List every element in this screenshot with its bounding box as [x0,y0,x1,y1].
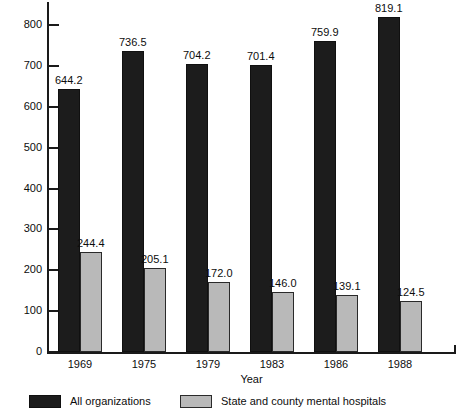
legend-label-state-county-mental-hospitals: State and county mental hospitals [221,395,386,407]
bar-value-label: 644.2 [55,75,83,86]
legend-item-all-organizations: All organizations [29,391,151,411]
x-axis-tick-label: 1988 [380,358,420,370]
bar-value-label: 244.4 [77,238,105,249]
bar [58,89,80,352]
x-axis-tick-label: 1986 [316,358,356,370]
bar-value-label: 124.5 [397,287,425,298]
bar [186,64,208,352]
x-axis-title: Year [47,373,456,385]
bar [80,252,102,352]
bar [122,51,144,352]
x-axis-tick-label: 1979 [188,358,228,370]
legend-swatch-dark-icon [29,395,61,408]
bar-value-label: 139.1 [333,281,361,292]
bar [272,292,294,352]
legend-item-state-county-mental-hospitals: State and county mental hospitals [180,391,386,411]
bar [314,41,336,352]
legend-label-all-organizations: All organizations [70,395,151,407]
plot-area: 0100200300400500600700800 644.2244.4736.… [0,0,468,352]
bar-chart: 0100200300400500600700800 644.2244.4736.… [0,0,468,416]
x-axis-tick-label: 1969 [60,358,100,370]
chart-legend: All organizations State and county menta… [0,391,468,416]
bar [208,282,230,352]
x-axis-line [47,352,456,354]
bar-value-label: 736.5 [119,37,147,48]
bar-value-label: 701.4 [247,51,275,62]
bar [144,268,166,352]
bar-value-label: 704.2 [183,50,211,61]
bar [336,295,358,352]
legend-swatch-light-icon [180,395,212,408]
bar-value-label: 205.1 [141,254,169,265]
x-axis-tick-label: 1975 [124,358,164,370]
bar [400,301,422,352]
bar-value-label: 172.0 [205,268,233,279]
bar [250,65,272,352]
bar-value-label: 819.1 [375,3,403,14]
bars-layer: 644.2244.4736.5205.1704.2172.0701.4146.0… [0,0,468,352]
bar-value-label: 146.0 [269,278,297,289]
x-axis-tick-label: 1983 [252,358,292,370]
bar [378,17,400,352]
bar-value-label: 759.9 [311,27,339,38]
